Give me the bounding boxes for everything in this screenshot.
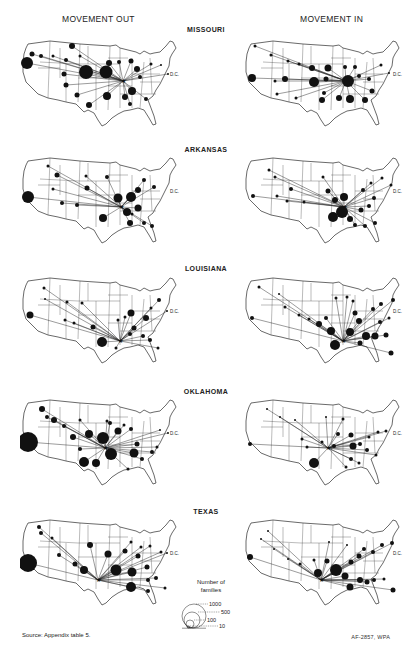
- family-count-circle: [128, 102, 132, 106]
- family-count-circle: [379, 302, 383, 306]
- flow-line: [57, 175, 121, 207]
- family-count-circle: [357, 74, 361, 78]
- flow-line: [105, 430, 160, 448]
- origin-star-icon: ★: [341, 338, 346, 344]
- family-count-circle: [328, 541, 330, 543]
- state-boundary: [40, 541, 78, 543]
- family-count-circle: [123, 424, 126, 427]
- family-count-circle: [64, 58, 68, 62]
- family-count-circle: [160, 64, 162, 66]
- flow-line: [66, 81, 123, 85]
- family-count-circle: [129, 427, 133, 431]
- origin-star-icon: ★: [319, 577, 324, 583]
- family-count-circle: [131, 213, 134, 216]
- dc-label: D.C.: [393, 551, 402, 556]
- flow-line: [90, 545, 98, 580]
- family-count-circle: [87, 542, 93, 548]
- family-count-circle: [128, 568, 137, 577]
- state-title: OKLAHOMA: [0, 388, 412, 395]
- dc-label: D.C.: [170, 189, 179, 194]
- family-count-circle: [365, 580, 370, 585]
- origin-star-icon: ★: [118, 338, 123, 344]
- family-count-circle: [287, 60, 290, 63]
- flow-line: [120, 341, 158, 348]
- family-count-circle: [69, 43, 75, 49]
- family-count-circle: [372, 333, 379, 340]
- family-count-circle: [79, 419, 82, 422]
- family-count-circle: [106, 60, 112, 66]
- flow-line: [59, 555, 98, 580]
- family-count-circle: [115, 347, 118, 350]
- state-boundary: [301, 44, 303, 102]
- us-map-movement-in: ★D.C.: [243, 275, 403, 365]
- flow-line: [67, 302, 120, 341]
- family-count-circle: [389, 351, 394, 356]
- family-count-circle: [60, 201, 64, 205]
- family-count-circle: [157, 347, 160, 350]
- family-count-circle: [346, 296, 349, 299]
- family-count-circle: [372, 578, 376, 582]
- origin-star-icon: ★: [342, 204, 347, 210]
- family-count-circle: [160, 551, 163, 554]
- family-count-circle: [330, 564, 342, 576]
- family-count-circle: [166, 552, 168, 554]
- family-count-circle: [343, 65, 347, 69]
- family-count-circle: [164, 587, 167, 590]
- family-count-circle: [273, 548, 275, 550]
- family-count-circle: [361, 188, 365, 192]
- state-boundary: [78, 523, 80, 581]
- flow-line: [123, 65, 161, 81]
- family-count-circle: [43, 287, 46, 290]
- family-count-circle: [21, 57, 33, 69]
- family-count-circle: [266, 408, 268, 410]
- flow-line: [309, 319, 343, 341]
- family-count-circle: [123, 208, 131, 216]
- family-count-circle: [377, 431, 380, 434]
- state-boundary: [150, 175, 152, 211]
- family-count-circle: [105, 175, 109, 179]
- state-boundary: [150, 295, 152, 331]
- us-outline: [23, 41, 176, 126]
- header-movement-in: MOVEMENT IN: [300, 14, 363, 24]
- family-count-circle: [372, 196, 376, 200]
- family-count-circle: [127, 220, 133, 226]
- family-count-circle: [79, 457, 89, 467]
- legend-label-100: 100: [207, 617, 216, 623]
- family-count-circle: [336, 432, 340, 436]
- flow-line: [288, 559, 321, 580]
- us-map-movement-in: ★D.C.: [243, 397, 403, 487]
- dc-label: D.C.: [170, 431, 179, 436]
- origin-star-icon: ★: [326, 445, 331, 451]
- family-count-circle: [316, 321, 322, 327]
- family-count-circle: [353, 223, 357, 227]
- family-count-circle: [327, 327, 335, 335]
- family-count-circle: [150, 307, 153, 310]
- flow-line: [322, 81, 346, 100]
- flow-line: [343, 341, 391, 353]
- family-count-circle: [346, 544, 348, 546]
- family-count-circle: [276, 195, 279, 198]
- family-count-circle: [123, 549, 128, 554]
- family-count-circle: [78, 447, 82, 451]
- state-boundary: [373, 537, 375, 573]
- legend: Number of families 1000 500 100 10: [178, 578, 248, 631]
- family-count-circle: [363, 224, 367, 228]
- family-count-circle: [52, 55, 55, 58]
- state-boundary: [263, 541, 301, 543]
- us-map-movement-out: ★D.C.: [20, 38, 180, 128]
- state-boundary: [363, 421, 367, 467]
- family-count-circle: [336, 95, 342, 101]
- family-count-circle: [51, 537, 54, 540]
- family-count-circle: [64, 83, 69, 88]
- family-count-circle: [114, 194, 123, 203]
- family-count-circle: [362, 547, 366, 551]
- family-count-circle: [86, 102, 92, 108]
- family-count-circle: [346, 95, 354, 103]
- family-count-circle: [276, 93, 279, 96]
- state-boundary: [48, 278, 50, 335]
- family-count-circle: [358, 442, 362, 446]
- state-boundary: [78, 281, 80, 339]
- family-count-circle: [115, 428, 122, 435]
- family-count-circle: [390, 184, 393, 187]
- family-count-circle: [380, 64, 383, 67]
